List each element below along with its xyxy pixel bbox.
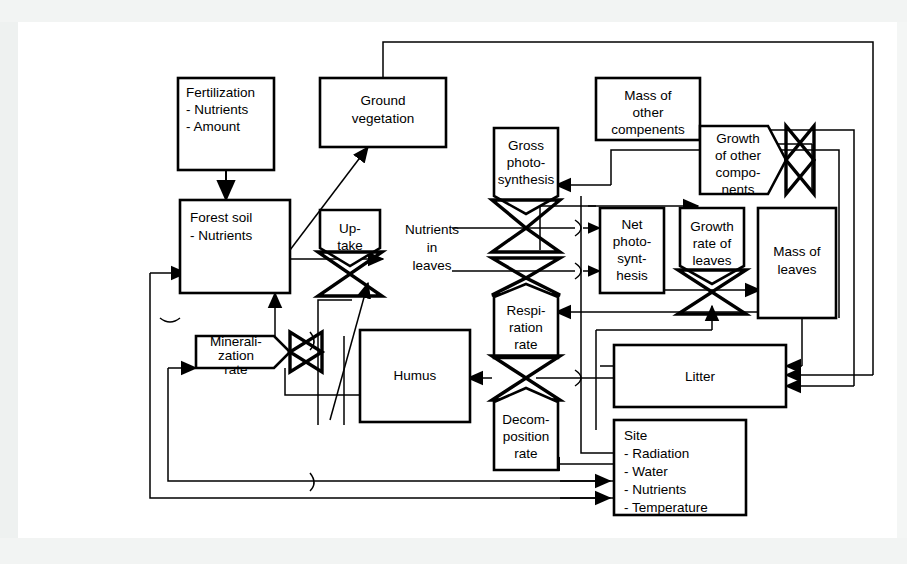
node-gross-photosynthesis[interactable]: Gross photo- synthesis (492, 128, 560, 252)
net-photosynthesis-line-3: synt- (617, 251, 646, 266)
net-photosynthesis-line-4: hesis (616, 268, 648, 283)
site-line-2: - Radiation (624, 446, 689, 461)
site-inbound-arrows (560, 481, 610, 498)
litter-label: Litter (685, 369, 716, 384)
line-jump-left-edge (160, 318, 180, 322)
growth-of-other-components-line-2: of other (715, 148, 761, 163)
growth-of-other-components-line-3: compo- (715, 165, 760, 180)
mass-of-other-compenents-line-3: compenents (611, 122, 685, 137)
mass-of-other-compenents-line-2: other (633, 105, 664, 120)
decomposition-rate-line-3: rate (514, 446, 537, 461)
node-nutrients-in-leaves: Nutrients in leaves (405, 222, 459, 273)
mass-of-other-compenents-line-1: Mass of (624, 88, 672, 103)
growth-rate-of-leaves-line-2: rate of (693, 236, 732, 251)
node-growth-of-other-components[interactable]: Growth of other compo- nents (700, 126, 814, 197)
node-forest-soil[interactable]: Forest soil - Nutrients (180, 200, 290, 293)
site-line-5: - Temperature (624, 500, 708, 515)
fertilization-line-3: - Amount (186, 119, 240, 134)
mineralization-rate-line-3: rate (224, 362, 247, 377)
line-jump-lower (575, 263, 581, 279)
site-line-3: - Water (624, 464, 668, 479)
mass-of-leaves-line-2: leaves (777, 262, 816, 277)
node-growth-rate-of-leaves[interactable]: Growth rate of leaves (678, 208, 746, 314)
fertilization-line-2: - Nutrients (186, 102, 249, 117)
node-mass-of-other-compenents[interactable]: Mass of other compenents (596, 78, 700, 140)
node-uptake[interactable]: Up- take (318, 210, 382, 296)
node-mass-of-leaves[interactable]: Mass of leaves (758, 208, 836, 318)
site-line-4: - Nutrients (624, 482, 687, 497)
mineralization-rate-line-2: zation (218, 348, 254, 363)
forest-ecosystem-diagram: Fertilization - Nutrients - Amount Groun… (0, 0, 907, 564)
decomposition-rate-line-2: position (503, 429, 550, 444)
mineralization-rate-line-1: Minerali- (210, 334, 262, 349)
respiration-rate-line-1: Respi- (506, 303, 545, 318)
fertilization-line-1: Fertilization (186, 85, 255, 100)
nutrients-in-leaves-line-3: leaves (412, 258, 451, 273)
node-ground-vegetation[interactable]: Ground vegetation (320, 78, 446, 147)
ground-vegetation-line-2: vegetation (352, 111, 414, 126)
ground-vegetation-line-1: Ground (360, 93, 405, 108)
node-net-photosynthesis[interactable]: Net photo- synt- hesis (600, 208, 664, 293)
respiration-rate-line-2: ration (509, 320, 543, 335)
node-fertilization[interactable]: Fertilization - Nutrients - Amount (178, 78, 274, 170)
uptake-line-1: Up- (339, 221, 361, 236)
growth-of-other-components-line-1: Growth (716, 131, 760, 146)
gross-photosynthesis-line-3: synthesis (498, 172, 555, 187)
mass-of-leaves-line-1: Mass of (773, 244, 821, 259)
uptake-line-2: take (337, 238, 363, 253)
decomposition-rate-line-1: Decom- (502, 412, 549, 427)
node-site[interactable]: Site - Radiation - Water - Nutrients - T… (614, 420, 746, 515)
nutrients-in-leaves-line-2: in (427, 240, 438, 255)
site-line-1: Site (624, 428, 647, 443)
net-photosynthesis-line-1: Net (621, 217, 642, 232)
forest-soil-line-1: Forest soil (190, 210, 252, 225)
line-jump-left-low (310, 473, 314, 491)
node-decomposition-rate[interactable]: Decom- position rate (494, 388, 558, 470)
nutrients-in-leaves-line-1: Nutrients (405, 222, 459, 237)
growth-of-other-components-line-4: nents (721, 182, 754, 197)
gross-photosynthesis-line-1: Gross (508, 138, 544, 153)
forest-soil-line-2: - Nutrients (190, 228, 253, 243)
gross-photosynthesis-line-2: photo- (507, 155, 545, 170)
node-mineralization-rate[interactable]: Minerali- zation rate (196, 332, 322, 377)
line-jump-upper (575, 220, 581, 236)
growth-rate-of-leaves-line-1: Growth (690, 219, 734, 234)
node-litter[interactable]: Litter (614, 345, 786, 407)
growth-rate-of-leaves-line-3: leaves (692, 253, 731, 268)
humus-label: Humus (394, 368, 437, 383)
node-humus[interactable]: Humus (360, 330, 470, 422)
diagram-page: Fertilization - Nutrients - Amount Groun… (0, 0, 907, 564)
respiration-rate-line-3: rate (514, 337, 537, 352)
net-photosynthesis-line-2: photo- (613, 234, 651, 249)
